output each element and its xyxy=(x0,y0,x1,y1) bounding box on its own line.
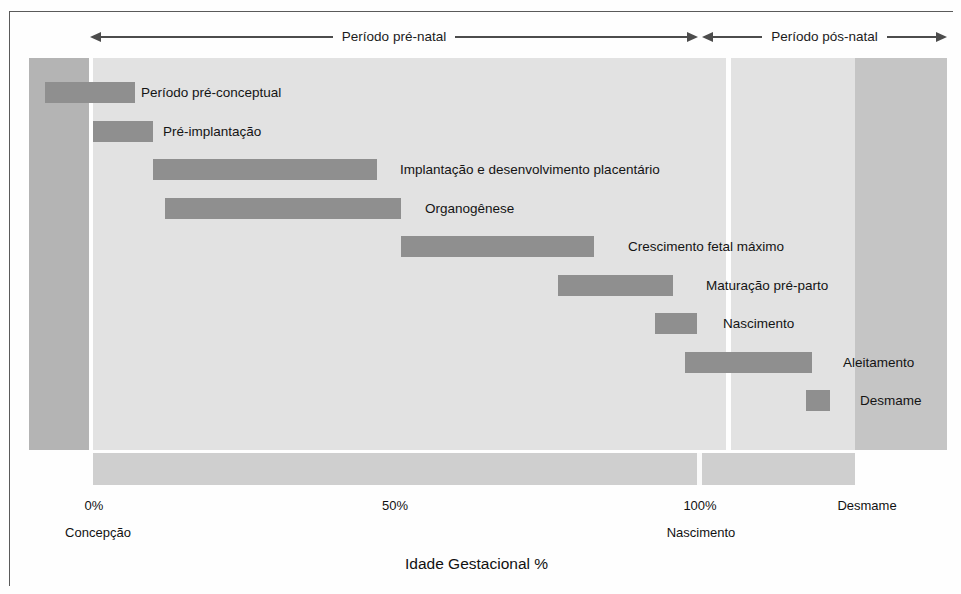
period-prenatal: Período pré-natal xyxy=(90,24,698,50)
bar xyxy=(558,275,673,296)
bar xyxy=(45,82,136,103)
bar xyxy=(153,159,376,180)
x-tick-sublabel-conception: Concepção xyxy=(53,525,143,540)
bar xyxy=(806,390,830,411)
x-tick-label-2: 100% xyxy=(665,498,735,513)
arrow-left-icon xyxy=(90,32,101,42)
arrow-right-icon xyxy=(687,32,698,42)
arrow-left-icon xyxy=(702,32,713,42)
period-postnatal-label: Período pós-natal xyxy=(762,30,887,44)
bar xyxy=(93,121,153,142)
bar xyxy=(685,352,812,373)
bar-label: Desmame xyxy=(860,390,922,411)
bar-label: Maturação pré-parto xyxy=(706,275,828,296)
axis-strip-birth-divider xyxy=(697,453,702,485)
period-postnatal-line-right xyxy=(887,36,936,38)
bar xyxy=(655,313,697,334)
period-prenatal-line-left xyxy=(101,36,333,38)
plot-area xyxy=(29,58,947,450)
bar-label: Aleitamento xyxy=(843,352,914,373)
period-postnatal-line-left xyxy=(713,36,762,38)
bar xyxy=(165,198,401,219)
period-header: Período pré-natal Período pós-natal xyxy=(0,24,961,50)
bar-label: Período pré-conceptual xyxy=(141,82,281,103)
figure-frame-left-rule xyxy=(9,11,10,586)
period-prenatal-line-right xyxy=(455,36,687,38)
period-postnatal: Período pós-natal xyxy=(702,24,947,50)
bar-label: Organogênese xyxy=(425,198,514,219)
x-tick-label-0: 0% xyxy=(59,498,129,513)
bar-label: Pré-implantação xyxy=(163,121,261,142)
axis-strip xyxy=(93,453,855,485)
x-tick-label-3: Desmame xyxy=(823,498,911,513)
x-tick-label-1: 50% xyxy=(360,498,430,513)
axis-title: Idade Gestacional % xyxy=(405,555,548,573)
figure-frame-top-rule xyxy=(9,11,953,12)
period-prenatal-label: Período pré-natal xyxy=(333,30,455,44)
x-tick-sublabel-birth: Nascimento xyxy=(655,525,747,540)
arrow-right-icon xyxy=(936,32,947,42)
band-pre-conception xyxy=(29,58,89,450)
bar-label: Implantação e desenvolvimento placentári… xyxy=(400,159,660,180)
bar-label: Nascimento xyxy=(723,313,794,334)
gestational-age-figure: Período pré-natal Período pós-natal Perí… xyxy=(0,0,961,594)
bar xyxy=(401,236,594,257)
bar-label: Crescimento fetal máximo xyxy=(628,236,784,257)
